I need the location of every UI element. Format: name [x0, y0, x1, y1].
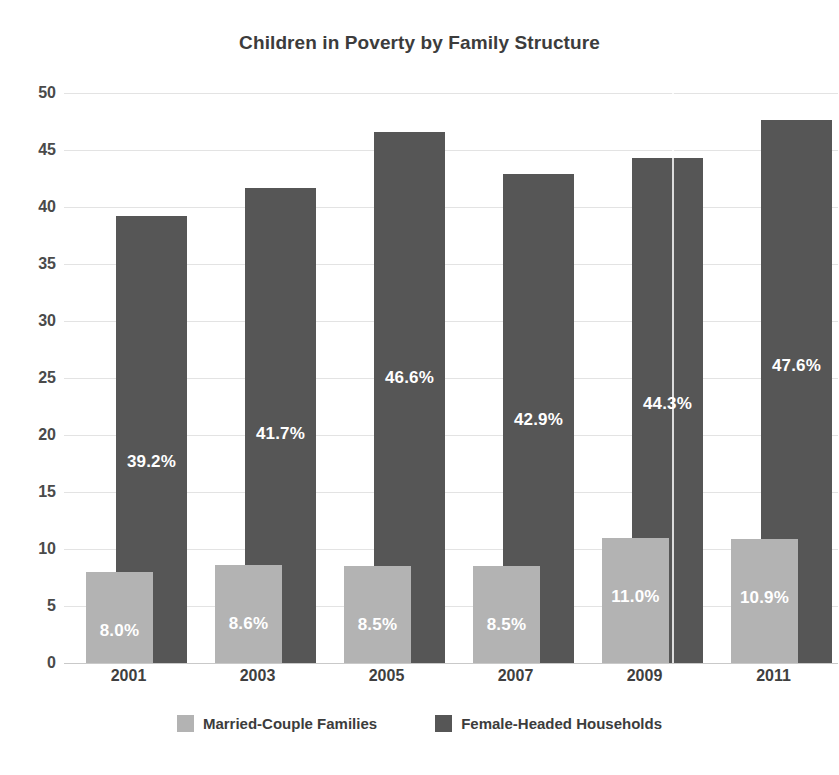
y-tick-label-50: 50: [0, 85, 56, 101]
x-axis: 200120032005200720092011: [64, 668, 838, 696]
x-tick-label-2009: 2009: [627, 668, 663, 684]
bar-married-couple-2001[interactable]: 8.0%: [86, 572, 153, 663]
legend-label: Female-Headed Households: [461, 715, 662, 732]
plot-area: 39.2%8.0%41.7%8.6%46.6%8.5%42.9%8.5%44.3…: [64, 93, 838, 663]
y-tick-label-45: 45: [0, 142, 56, 158]
y-tick-label-25: 25: [0, 370, 56, 386]
bar-value-label-female-headed-2011: 47.6%: [761, 356, 832, 376]
bar-value-label-female-headed-2009: 44.3%: [632, 394, 703, 414]
y-tick-label-35: 35: [0, 256, 56, 272]
bar-value-label-married-couple-2005: 8.5%: [344, 615, 411, 635]
y-axis: 05101520253035404550: [0, 93, 56, 663]
bar-married-couple-2003[interactable]: 8.6%: [215, 565, 282, 663]
gridline-0: [64, 663, 838, 664]
y-tick-label-10: 10: [0, 541, 56, 557]
bar-value-label-married-couple-2001: 8.0%: [86, 621, 153, 641]
bar-married-couple-2009[interactable]: 11.0%: [602, 538, 669, 663]
bar-value-label-female-headed-2001: 39.2%: [116, 452, 187, 472]
bar-value-label-married-couple-2009: 11.0%: [602, 587, 669, 607]
bar-value-label-female-headed-2005: 46.6%: [374, 368, 445, 388]
bar-value-label-married-couple-2011: 10.9%: [731, 588, 798, 608]
chart-figure: Children in Poverty by Family Structure …: [0, 0, 839, 775]
x-tick-label-2005: 2005: [369, 668, 405, 684]
bar-married-couple-2005[interactable]: 8.5%: [344, 566, 411, 663]
x-tick-label-2003: 2003: [240, 668, 276, 684]
legend-item-female-headed[interactable]: Female-Headed Households: [435, 715, 662, 732]
y-tick-label-15: 15: [0, 484, 56, 500]
x-tick-label-2011: 2011: [756, 668, 791, 684]
y-tick-label-0: 0: [0, 655, 56, 671]
bar-value-label-married-couple-2007: 8.5%: [473, 615, 540, 635]
chart-legend: Married-Couple FamiliesFemale-Headed Hou…: [0, 715, 839, 732]
y-tick-label-40: 40: [0, 199, 56, 215]
chart-title: Children in Poverty by Family Structure: [0, 32, 839, 54]
bar-value-label-married-couple-2003: 8.6%: [215, 614, 282, 634]
bar-value-label-female-headed-2007: 42.9%: [503, 410, 574, 430]
legend-item-married-couple[interactable]: Married-Couple Families: [177, 715, 377, 732]
bar-married-couple-2007[interactable]: 8.5%: [473, 566, 540, 663]
bar-value-label-female-headed-2003: 41.7%: [245, 424, 316, 444]
x-tick-label-2007: 2007: [498, 668, 534, 684]
x-tick-label-2001: 2001: [111, 668, 147, 684]
bar-married-couple-2011[interactable]: 10.9%: [731, 539, 798, 663]
y-tick-label-20: 20: [0, 427, 56, 443]
y-tick-label-30: 30: [0, 313, 56, 329]
legend-swatch-icon-light: [177, 715, 194, 732]
legend-label: Married-Couple Families: [203, 715, 377, 732]
bar-series-group: 39.2%8.0%41.7%8.6%46.6%8.5%42.9%8.5%44.3…: [64, 93, 838, 663]
y-tick-label-5: 5: [0, 598, 56, 614]
legend-swatch-icon-dark: [435, 715, 452, 732]
